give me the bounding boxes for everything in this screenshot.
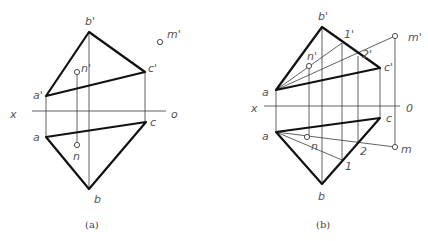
figure-b: b' 1' m' n' 2' c' a x 0 c a n m 2 1 b (b…: [250, 10, 422, 230]
triangle-top-view-a: [46, 122, 146, 189]
label-c-a: c: [150, 116, 156, 129]
point-m-b: [392, 144, 397, 149]
label-c-b: c: [386, 112, 392, 125]
figure-a: b' m' n' c' a' x o a c n b (a): [9, 15, 181, 230]
label-1-prime-b: 1': [344, 28, 354, 41]
label-m-prime-a: m': [167, 28, 181, 41]
label-a-a: a: [33, 131, 40, 144]
point-m-prime-b: [392, 33, 397, 38]
label-2-b: 2: [360, 145, 367, 158]
point-n-b: [304, 134, 309, 139]
label-2-prime-b: 2': [362, 48, 372, 61]
label-b-prime-a: b': [85, 15, 95, 28]
label-x-b: x: [250, 102, 258, 115]
label-b-b: b: [318, 190, 325, 203]
label-b-a: b: [94, 193, 101, 206]
label-a-prime-a: a': [33, 89, 43, 102]
label-m-prime-b: m': [408, 31, 422, 44]
triangle-front-view-a: [46, 32, 145, 96]
label-c-prime-a: c': [148, 62, 157, 75]
label-n-a: n: [73, 150, 80, 163]
label-o-a: o: [171, 108, 178, 121]
label-n-prime-a: n': [81, 62, 91, 75]
label-a-b: a: [262, 130, 269, 143]
point-n-prime-a: [74, 69, 79, 74]
label-a-prime-b: a: [262, 86, 269, 99]
label-x-a: x: [9, 108, 17, 121]
projection-diagrams: b' m' n' c' a' x o a c n b (a): [0, 0, 428, 241]
point-m-prime-a: [157, 39, 162, 44]
point-n-prime-b: [306, 63, 311, 68]
caption-b: (b): [316, 219, 330, 230]
label-1-b: 1: [345, 160, 352, 173]
aux-line-a-m-prime: [276, 36, 395, 90]
label-n-b: n: [311, 140, 318, 153]
point-n-a: [74, 142, 79, 147]
label-o-b: 0: [406, 102, 413, 115]
label-b-prime-b: b': [318, 10, 328, 23]
label-m-b: m: [401, 143, 412, 156]
caption-a: (a): [85, 219, 99, 230]
label-c-prime-b: c': [384, 61, 393, 74]
label-n-prime-b: n': [307, 50, 317, 63]
